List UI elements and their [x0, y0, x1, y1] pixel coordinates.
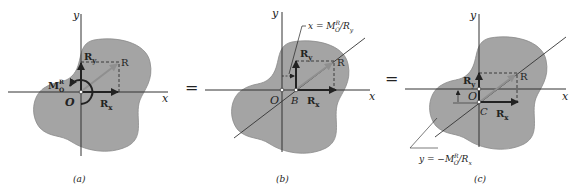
- origin-point: [477, 87, 481, 91]
- x-axis-label: x: [369, 90, 376, 103]
- panel-a: y x O Ry Rx R MRO (a): [8, 9, 169, 184]
- panel-c: y x O C Ry Rx R y = −MRO/Rx (c): [405, 9, 569, 184]
- caption-b: (b): [276, 174, 289, 184]
- y-axis-label: y: [271, 7, 279, 20]
- caption-c: (c): [474, 174, 487, 184]
- x-axis-label: x: [162, 92, 169, 105]
- r-label: R: [337, 57, 345, 68]
- panel-b: y x O B Ry Rx R x = MRO/Ry (b): [205, 7, 376, 184]
- moment-label: MRO: [48, 78, 65, 93]
- point-c-label: C: [480, 106, 488, 117]
- y-axis-label: y: [469, 9, 477, 22]
- diagram-canvas: y x O Ry Rx R MRO (a) = y x O B Ry Rx R …: [0, 0, 573, 192]
- origin-point: [280, 88, 284, 92]
- r-label: R: [520, 71, 528, 82]
- point-c: [477, 100, 481, 104]
- y-axis-label: y: [72, 9, 80, 22]
- rigid-body-shape: [430, 37, 547, 149]
- equals-sign-2: =: [385, 69, 398, 88]
- origin-label: O: [65, 96, 75, 109]
- r-label: R: [121, 57, 129, 68]
- x-axis-label: x: [562, 90, 569, 103]
- caption-a: (a): [73, 174, 86, 184]
- y-distance-annotation: y = −MRO/Rx: [418, 152, 472, 166]
- origin-label: O: [468, 90, 477, 103]
- point-b: [294, 88, 298, 92]
- origin-label: O: [270, 94, 279, 107]
- origin-point: [79, 90, 83, 94]
- x-distance-annotation: x = MRO/Ry: [308, 19, 354, 34]
- equals-sign-1: =: [185, 78, 198, 97]
- point-b-label: B: [290, 95, 298, 106]
